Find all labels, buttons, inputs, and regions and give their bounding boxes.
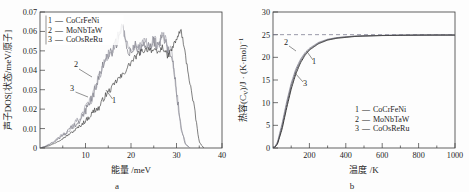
panel-caption-a: a: [0, 181, 234, 191]
curve-annotations-a: 2 3 1: [70, 60, 116, 105]
panel-b-plot: 200 400 600 800 1000 0 5 10 15 20 25 30: [235, 0, 469, 192]
xaxis-title-b: 温度 /K: [349, 164, 379, 175]
ytick-label-b-4: 20: [262, 53, 270, 62]
legend-b-item-2: 3—CoOsReRu: [355, 124, 409, 133]
xtick-label-a-1: 20: [127, 151, 135, 160]
panel-b: 200 400 600 800 1000 0 5 10 15 20 25 30: [235, 0, 469, 192]
xtick-label-a-3: 40: [218, 151, 226, 160]
xtick-label-b-1: 400: [340, 151, 352, 160]
ytick-label-b-6: 30: [262, 8, 270, 17]
annotation-a-2: 2: [74, 60, 78, 69]
ytick-label-b-0: 0: [266, 144, 270, 153]
dos-curve-cocrfeni: [40, 30, 204, 148]
legend-a-item-0: 1—CoCrFeNi: [48, 16, 100, 25]
yaxis-title-b: 热容(CV)/J · (K·mol)−1: [237, 38, 249, 122]
xtick-label-b-4: 1000: [447, 151, 463, 160]
ytick-label-a-6: 0.06: [23, 27, 37, 36]
ytick-label-a-3: 0.03: [23, 86, 37, 95]
figure-container: 10 20 30 40 0 0.01 0.02 0.03 0.04 0.05 0…: [0, 0, 469, 192]
xtick-label-a-0: 10: [81, 151, 89, 160]
legend-a: 1—CoCrFeNi 2—MoNbTaW 3—CoOsReRu: [46, 15, 124, 45]
ytick-label-a-4: 0.04: [23, 66, 37, 75]
annotation-b-1: 1: [312, 57, 316, 66]
xtick-label-a-2: 30: [172, 151, 180, 160]
ytick-label-b-2: 10: [262, 99, 270, 108]
xaxis-title-a: 能量 /meV: [111, 164, 152, 175]
y-axis-ticks-a: [40, 12, 45, 148]
legend-a-item-1: 2—MoNbTaW: [48, 26, 103, 35]
legend-a-item-2: 3—CoOsReRu: [48, 35, 102, 44]
ytick-label-a-5: 0.05: [23, 47, 37, 56]
xtick-label-b-0: 200: [303, 151, 315, 160]
yaxis-title-a: 声子DOS[状态/meV/原子]: [2, 30, 13, 131]
annotation-a-3: 3: [70, 84, 74, 93]
ytick-label-a-2: 0.02: [23, 105, 37, 114]
ytick-label-a-7: 0.07: [23, 8, 37, 17]
x-axis-ticks-a: [63, 143, 222, 148]
legend-b: 1—CoCrFeNi 2—MoNbTaW 3—CoOsReRu: [355, 105, 410, 133]
panel-a-plot: 10 20 30 40 0 0.01 0.02 0.03 0.04 0.05 0…: [0, 0, 234, 192]
ytick-label-a-0: 0: [33, 144, 37, 153]
y-axis-ticks-b: [273, 12, 278, 148]
legend-b-item-0: 1—CoCrFeNi: [355, 105, 407, 114]
panel-a: 10 20 30 40 0 0.01 0.02 0.03 0.04 0.05 0…: [0, 0, 234, 192]
panel-caption-b: b: [235, 181, 469, 191]
x-axis-ticks-b: [291, 143, 455, 148]
xtick-label-b-3: 800: [412, 151, 424, 160]
ytick-label-a-1: 0.01: [23, 125, 37, 134]
annotation-b-2: 2: [284, 38, 288, 47]
annotation-b-3: 3: [303, 79, 307, 88]
ytick-label-b-5: 25: [262, 31, 270, 40]
ytick-label-b-1: 5: [266, 121, 270, 130]
legend-b-item-1: 2—MoNbTaW: [355, 115, 410, 124]
xtick-label-b-2: 600: [376, 151, 388, 160]
annotation-a-1: 1: [112, 96, 116, 105]
ytick-label-b-3: 15: [262, 76, 270, 85]
